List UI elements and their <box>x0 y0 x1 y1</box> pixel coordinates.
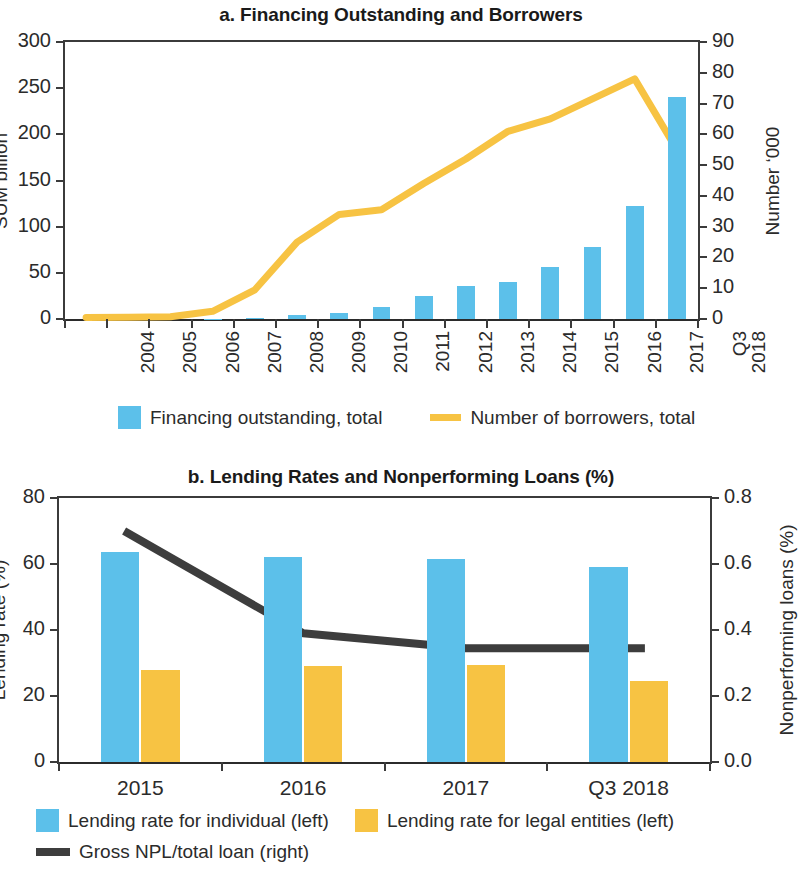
panel-b-right-axis-title: Nonperforming loans (%) <box>776 515 798 745</box>
panel-a-legend: Financing outstanding, totalNumber of bo… <box>118 406 695 429</box>
panel-a-left-tick <box>56 87 65 89</box>
panel-b-left-tick <box>50 563 59 565</box>
panel-b-legend-row-1: Lending rate for individual (left)Lendin… <box>36 809 674 832</box>
panel-a-bottom-tick <box>444 319 446 328</box>
panel-a-x-tick-label-line1: 2012 <box>475 331 496 373</box>
panel-a-x-tick-label-line1: 2005 <box>180 331 201 373</box>
panel-b-right-tick <box>710 695 719 697</box>
panel-b-bar <box>630 681 668 762</box>
panel-a-left-axis-title: SUM billion <box>0 106 12 256</box>
panel-a-bottom-tick <box>359 319 361 328</box>
panel-a-left-tick-label: 150 <box>18 169 51 189</box>
panel-a-x-tick-label: Q32018 <box>730 331 768 373</box>
panel-b-right-tick <box>710 563 719 565</box>
panel-b-x-tick-label: 2016 <box>280 776 327 800</box>
panel-a-bottom-tick <box>402 319 404 328</box>
panel-a-right-tick-label: 80 <box>712 61 734 81</box>
panel-b-left-tick-label: 40 <box>23 618 45 638</box>
panel-a-bottom-tick <box>655 319 657 328</box>
panel-b-plot-inner: 0204060800.00.20.40.60.8201520162017Q3 2… <box>59 498 710 762</box>
panel-a-bar <box>499 282 517 319</box>
panel-a-x-tick-label: 2005 <box>181 331 200 373</box>
panel-a-x-tick-label-line1: 2015 <box>602 331 623 373</box>
panel-a-x-tick-label: 2008 <box>307 331 326 373</box>
legend-square-swatch-icon <box>118 406 141 429</box>
panel-a-bottom-tick <box>697 319 699 328</box>
panel-a-left-tick-label: 200 <box>18 122 51 142</box>
panel-b-right-tick <box>710 497 719 499</box>
panel-a-x-tick-label-line1: 2009 <box>348 331 369 373</box>
panel-a-bar <box>541 267 559 319</box>
panel-a-right-tick <box>698 256 707 258</box>
panel-a-svg <box>65 42 698 319</box>
panel-a-bar <box>668 97 686 319</box>
panel-b-bottom-tick <box>221 762 223 771</box>
panel-a-x-tick-label-line1: 2017 <box>686 331 707 373</box>
panel-a-left-tick-label: 0 <box>40 307 51 327</box>
panel-a-right-tick <box>698 195 707 197</box>
panel-a-bottom-tick <box>64 319 66 328</box>
panel-a-bar <box>457 286 475 319</box>
panel-a-right-tick-label: 0 <box>712 307 723 327</box>
panel-a-bar <box>584 247 602 319</box>
panel-a-bottom-tick <box>275 319 277 328</box>
panel-b-legend-item: Lending rate for legal entities (left) <box>355 809 674 832</box>
legend-square-swatch-icon <box>36 809 59 832</box>
panel-a-x-tick-label-line1: 2008 <box>306 331 327 373</box>
panel-b-legend-label: Lending rate for legal entities (left) <box>387 810 674 832</box>
panel-b-legend-label: Lending rate for individual (left) <box>68 810 329 832</box>
panel-a-bottom-tick <box>233 319 235 328</box>
panel-b-x-tick-label: Q3 2018 <box>588 776 669 800</box>
panel-a-left-tick-label: 100 <box>18 215 51 235</box>
panel-b-title: b. Lending Rates and Nonperforming Loans… <box>0 466 802 488</box>
panel-a-plot-inner: 0501001502002503000102030405060708090200… <box>65 42 698 319</box>
panel-a-bottom-tick <box>528 319 530 328</box>
panel-b-npl-line <box>124 531 645 648</box>
panel-a-right-tick-label: 40 <box>712 184 734 204</box>
panel-a-x-tick-label: 2004 <box>138 331 157 373</box>
panel-a-bar <box>330 313 348 319</box>
panel-b-bottom-tick <box>546 762 548 771</box>
panel-a-bottom-tick <box>148 319 150 328</box>
panel-a-title: a. Financing Outstanding and Borrowers <box>0 4 802 26</box>
panel-a-x-tick-label-line1: 2011 <box>431 331 452 372</box>
panel-b-right-tick-label: 0.0 <box>724 750 752 770</box>
panel-b-right-tick <box>710 629 719 631</box>
panel-a-bottom-tick <box>191 319 193 328</box>
panel-a-bottom-tick <box>570 319 572 328</box>
panel-a-right-tick-label: 20 <box>712 245 734 265</box>
panel-a-legend-item: Financing outstanding, total <box>118 406 382 429</box>
panel-b-left-tick <box>50 695 59 697</box>
panel-b-legend-item: Lending rate for individual (left) <box>36 809 329 832</box>
chart-panel-b: b. Lending Rates and Nonperforming Loans… <box>0 452 802 872</box>
panel-b-right-tick-label: 0.4 <box>724 618 752 638</box>
panel-a-legend-label: Number of borrowers, total <box>470 407 695 429</box>
figure-page: a. Financing Outstanding and Borrowers 0… <box>0 0 802 872</box>
panel-a-x-tick-label: 2006 <box>223 331 242 373</box>
panel-a-x-tick-label: 2009 <box>349 331 368 373</box>
panel-a-right-tick-label: 10 <box>712 276 734 296</box>
panel-a-x-tick-label: 2011 <box>432 331 451 372</box>
panel-b-right-tick-label: 0.8 <box>724 486 752 506</box>
panel-b-bar <box>264 557 302 762</box>
panel-b-left-axis-title: Lending rate (%) <box>0 550 10 710</box>
chart-panel-a: a. Financing Outstanding and Borrowers 0… <box>0 0 802 452</box>
panel-a-x-tick-label-line1: 2004 <box>137 331 158 373</box>
panel-a-right-tick <box>698 318 707 320</box>
panel-a-right-tick <box>698 103 707 105</box>
panel-a-right-tick <box>698 133 707 135</box>
panel-a-x-tick-label: 2007 <box>265 331 284 373</box>
panel-a-right-tick <box>698 226 707 228</box>
panel-a-x-tick-label: 2017 <box>687 331 706 373</box>
panel-a-right-tick-label: 50 <box>712 153 734 173</box>
panel-b-bar <box>589 567 627 762</box>
panel-a-left-tick <box>56 180 65 182</box>
panel-a-bar <box>373 307 391 319</box>
panel-a-x-tick-label-line1: 2013 <box>517 331 538 373</box>
panel-a-right-tick <box>698 41 707 43</box>
panel-a-right-tick <box>698 287 707 289</box>
panel-a-bar <box>415 296 433 319</box>
panel-a-right-tick <box>698 164 707 166</box>
panel-b-legend-row-2: Gross NPL/total loan (right) <box>36 841 309 863</box>
panel-a-x-tick-label: 2014 <box>560 331 579 373</box>
